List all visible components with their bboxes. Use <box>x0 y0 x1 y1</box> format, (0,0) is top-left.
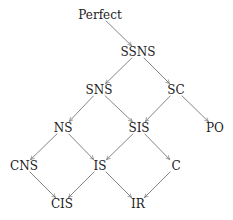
node-c: C <box>171 160 180 172</box>
node-ns: NS <box>54 122 73 134</box>
edge-ssns-to-sc <box>144 58 170 84</box>
node-sc: SC <box>167 84 184 96</box>
node-po: PO <box>206 122 224 134</box>
edges-layer <box>0 0 233 220</box>
edge-c-to-ir <box>144 172 170 198</box>
node-sis: SIS <box>128 122 149 134</box>
edge-sis-to-c <box>145 134 170 160</box>
edge-sc-to-sis <box>145 96 170 122</box>
edge-sis-to-is <box>106 134 133 160</box>
edge-ns-to-cns <box>30 134 57 160</box>
edge-is-to-ir <box>106 172 132 198</box>
node-ir: IR <box>131 198 145 210</box>
hierarchy-diagram: PerfectSSNSSNSSCNSSISPOCNSISCCISIR <box>0 0 233 220</box>
node-is: IS <box>94 160 107 172</box>
node-cis: CIS <box>51 198 73 210</box>
node-sns: SNS <box>86 84 113 96</box>
edge-perfect-to-ssns <box>106 21 132 46</box>
edge-ssns-to-sns <box>105 58 132 84</box>
edge-cns-to-cis <box>30 172 56 198</box>
edge-sns-to-sis <box>105 96 133 122</box>
edge-is-to-cis <box>68 172 94 198</box>
edge-sns-to-ns <box>69 96 93 122</box>
node-cns: CNS <box>10 160 38 172</box>
edge-ns-to-is <box>69 134 94 160</box>
edge-sc-to-po <box>182 96 209 122</box>
node-perfect: Perfect <box>78 9 121 21</box>
node-ssns: SSNS <box>121 46 156 58</box>
